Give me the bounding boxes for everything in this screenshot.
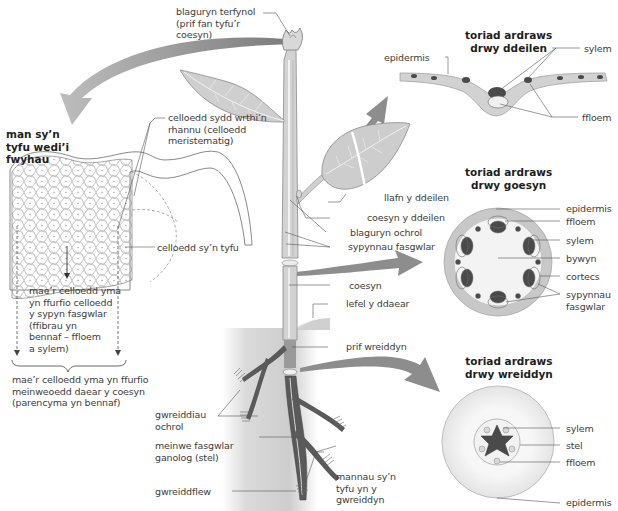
label-leaf-stalk: coesyn y ddeilen [367, 212, 445, 224]
stem-label-epidermis: epidermis [566, 203, 612, 215]
stem-label-vascular-bundles: sypynnau fasgwlar [566, 289, 611, 312]
label-terminal-bud: blaguryn terfynol (prif fan tyfu’r coesy… [176, 6, 255, 41]
label-lateral-bud: blaguryn ochrol [350, 227, 422, 239]
growth-region-title: man sy’n tyfu wedi’i fwyhau [6, 128, 69, 166]
arrow-to-root-section [300, 357, 440, 392]
root-label-xylem: sylem [566, 423, 594, 435]
root-label-epidermis: epidermis [566, 497, 612, 509]
root-label-stele: stel [566, 440, 583, 452]
stem-label-cortex: cortecs [566, 271, 600, 283]
leaf-label-xylem: sylem [584, 43, 612, 55]
label-lateral-roots: gwreiddiau ochrol [155, 409, 206, 432]
stem-label-pith: bywyn [566, 253, 596, 265]
label-vascular-bundles: sypynnau fasgwlar [348, 241, 435, 253]
diagram-artwork [0, 0, 618, 511]
leaf-cross-section [400, 48, 607, 117]
stem-section-title: toriad ardraws drwy goesyn [465, 166, 552, 191]
arrow-to-stem-section [296, 250, 423, 276]
label-ground-level: lefel y ddaear [346, 298, 409, 310]
label-main-root: prif wreiddyn [346, 341, 407, 353]
leaf-label-epidermis: epidermis [384, 52, 430, 64]
root-label-phloem: ffloem [566, 457, 595, 469]
label-growing-cells: celloedd sy’n tyfu [157, 242, 239, 254]
root-section-title: toriad ardraws drwy wreiddyn [465, 355, 553, 380]
root-cross-section [442, 386, 560, 503]
label-central-vascular-tissue: meinwe fasgwlar ganolog (stel) [155, 440, 233, 463]
stem-label-xylem: sylem [566, 235, 594, 247]
label-vascular-cells-note: mae’r celloedd yma yn ffurfio celloedd y… [29, 285, 121, 354]
plant-growth-diagram: man sy’n tyfu wedi’i fwyhau toriad ardra… [0, 0, 618, 511]
label-root-hair: gwreiddflew [155, 486, 211, 498]
leaf-section-title: toriad ardraws drwy ddeilen [465, 29, 552, 54]
label-leaf-blade: llafn y ddeilen [384, 192, 449, 204]
label-ground-tissue-note: mae’r celloedd yma yn ffurfio meinweoedd… [12, 374, 148, 409]
label-root-growing-points: mannau sy’n tyfu yn y gwreiddyn [336, 471, 396, 506]
stem-label-phloem: ffloem [566, 216, 595, 228]
label-dividing-cells: celloedd sydd wrthi’n rhannu (celloedd m… [168, 112, 267, 147]
stem-cross-section [444, 208, 560, 316]
leaf-label-phloem: ffloem [582, 112, 611, 124]
label-stem: coesyn [349, 280, 382, 292]
